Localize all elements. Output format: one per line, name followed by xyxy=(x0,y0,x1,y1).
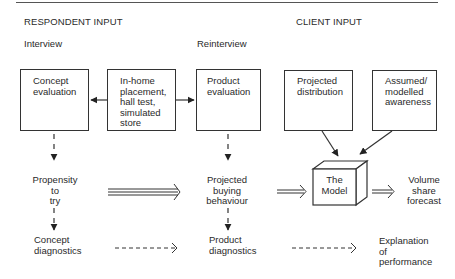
label-text: Concept xyxy=(34,235,82,246)
model-text: The xyxy=(313,175,356,186)
double-arrow-propensity xyxy=(108,184,180,200)
label-text: behaviour xyxy=(196,196,258,207)
label-text: diagnostics xyxy=(34,246,82,257)
label-text: Propensity xyxy=(30,175,80,186)
label-text: performance xyxy=(379,257,432,268)
model-label: The Model xyxy=(313,175,356,196)
arrow-model-to-forecast xyxy=(372,185,394,198)
product-diagnostics: Product diagnostics xyxy=(209,235,257,256)
label-text: diagnostics xyxy=(209,246,257,257)
label-text: Explanation xyxy=(379,236,432,247)
label-text: try xyxy=(30,196,80,207)
model-text: Model xyxy=(313,186,356,197)
concept-diagnostics: Concept diagnostics xyxy=(34,235,82,256)
projected-buying-behaviour: Projected buying behaviour xyxy=(196,175,258,207)
label-text: forecast xyxy=(404,196,444,207)
volume-share-forecast: Volume share forecast xyxy=(404,175,444,207)
label-text: Volume xyxy=(404,175,444,186)
propensity-to-try: Propensity to try xyxy=(30,175,80,207)
label-text: Product xyxy=(209,235,257,246)
label-text: Projected xyxy=(196,175,258,186)
arrow-buying-to-model xyxy=(277,185,306,198)
explanation-of-performance: Explanation of performance xyxy=(379,236,432,268)
